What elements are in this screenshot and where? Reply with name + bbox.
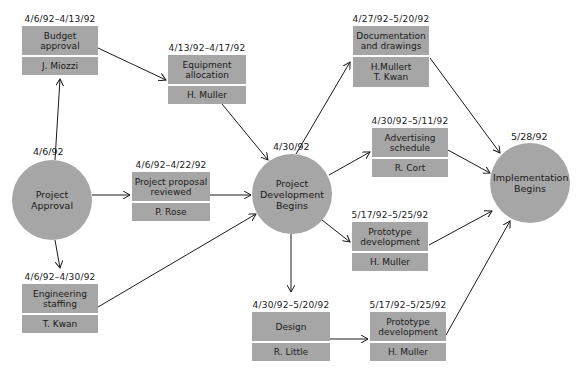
task-dates: 4/30/92–5/11/92 — [366, 116, 454, 126]
task-title: Advertising schedule — [372, 128, 448, 157]
task-owner: R. Little — [252, 343, 330, 361]
task-owner: H. Muller — [370, 343, 446, 361]
task-advertising-schedule[interactable]: 4/30/92–5/11/92 Advertising schedule R. … — [372, 128, 448, 177]
task-documentation-drawings[interactable]: 4/27/92–5/20/92 Documentation and drawin… — [353, 26, 429, 87]
task-title: Prototype development — [352, 222, 428, 251]
task-prototype-development-2[interactable]: 5/17/92–5/25/92 Prototype development H.… — [370, 312, 446, 361]
task-project-proposal-reviewed[interactable]: 4/6/92–4/22/92 Project proposal reviewed… — [132, 172, 210, 221]
task-budget-approval[interactable]: 4/6/92–4/13/92 Budget approval J. Miozzi — [22, 26, 98, 75]
arrow-prototype1-to-impl — [429, 211, 492, 245]
milestone-label: Implementation Begins — [493, 172, 567, 194]
task-title: Prototype development — [370, 312, 446, 341]
milestone-label: Project Development Begins — [257, 178, 327, 211]
arrow-dev-to-prototype1 — [322, 220, 350, 242]
task-dates: 4/6/92–4/30/92 — [16, 272, 104, 282]
milestone-project-approval[interactable]: Project Approval — [12, 160, 92, 240]
task-engineering-staffing[interactable]: 4/6/92–4/30/92 Engineering staffing T. K… — [22, 284, 98, 333]
arrow-equipment-to-dev — [222, 104, 268, 160]
task-owner: R. Cort — [372, 159, 448, 177]
milestone-date: 4/30/92 — [273, 141, 310, 152]
task-dates: 4/30/92–5/20/92 — [246, 300, 336, 310]
arrow-prototype2-to-impl — [446, 221, 510, 335]
task-title: Project proposal reviewed — [132, 172, 210, 201]
task-owner: J. Miozzi — [22, 57, 98, 75]
arrow-budget-to-equipment — [98, 48, 166, 80]
milestone-label: Project Approval — [27, 189, 77, 211]
task-owner: T. Kwan — [22, 315, 98, 333]
milestone-implementation[interactable]: Implementation Begins — [490, 143, 570, 223]
task-title: Budget approval — [22, 26, 98, 55]
task-title: Design — [252, 312, 330, 341]
arrow-advertising-to-impl — [448, 150, 490, 173]
milestone-project-development[interactable]: Project Development Begins — [252, 154, 332, 234]
task-title: Documentation and drawings — [353, 26, 429, 55]
task-design[interactable]: 4/30/92–5/20/92 Design R. Little — [252, 312, 330, 361]
arrow-dev-to-advertising — [329, 152, 370, 175]
task-prototype-development-1[interactable]: 5/17/92–5/25/92 Prototype development H.… — [352, 222, 428, 271]
task-title: Engineering staffing — [22, 284, 98, 313]
task-dates: 4/13/92–4/17/92 — [162, 43, 252, 53]
milestone-date: 5/28/92 — [511, 131, 548, 142]
task-dates: 4/6/92–4/13/92 — [16, 14, 104, 24]
task-dates: 5/17/92–5/25/92 — [346, 210, 434, 220]
task-owner: P. Rose — [132, 203, 210, 221]
arrow-engineering-to-dev — [98, 214, 256, 307]
task-dates: 4/27/92–5/20/92 — [347, 14, 435, 24]
task-owner: H. Muller — [352, 253, 428, 271]
task-equipment-allocation[interactable]: 4/13/92–4/17/92 Equipment allocation H. … — [168, 55, 246, 104]
milestone-date: 4/6/92 — [33, 146, 64, 157]
task-dates: 4/6/92–4/22/92 — [126, 160, 216, 170]
task-owner: H.Mullert T. Kwan — [353, 57, 429, 87]
task-dates: 5/17/92–5/25/92 — [364, 300, 452, 310]
task-owner: H. Muller — [168, 86, 246, 104]
task-title: Equipment allocation — [168, 55, 246, 84]
arrow-approval-to-engineering — [55, 240, 60, 268]
